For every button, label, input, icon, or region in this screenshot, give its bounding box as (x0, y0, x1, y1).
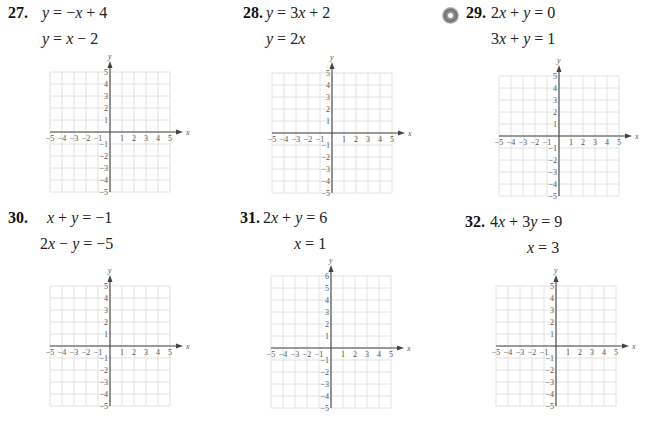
svg-text:2: 2 (104, 104, 108, 113)
svg-text:−5: −5 (548, 192, 557, 201)
svg-text:−2: −2 (99, 366, 108, 375)
problem-number: 30. (8, 209, 28, 227)
svg-text:−5: −5 (268, 135, 277, 144)
svg-text:2: 2 (354, 135, 358, 144)
svg-text:4: 4 (104, 80, 108, 89)
svg-text:2: 2 (132, 348, 136, 357)
svg-text:6: 6 (325, 272, 329, 281)
svg-text:−3: −3 (545, 378, 554, 387)
svg-text:2: 2 (326, 105, 330, 114)
svg-text:−1: −1 (99, 354, 108, 363)
svg-text:1: 1 (104, 330, 108, 339)
svg-text:2: 2 (104, 318, 108, 327)
svg-text:−3: −3 (320, 380, 329, 389)
svg-text:−5: −5 (99, 188, 108, 197)
svg-text:4: 4 (550, 294, 554, 303)
svg-text:3: 3 (104, 306, 108, 315)
svg-text:x: x (185, 342, 190, 351)
svg-text:−5: −5 (267, 350, 276, 359)
svg-text:−2: −2 (82, 134, 91, 143)
svg-text:−2: −2 (304, 135, 313, 144)
coordinate-grid[interactable]: xy−5−4−3−2−112345−5−4−3−2−112345 (477, 54, 641, 218)
svg-text:−5: −5 (320, 404, 329, 413)
svg-text:3: 3 (593, 138, 597, 147)
svg-text:1: 1 (553, 120, 557, 129)
svg-text:−4: −4 (545, 390, 554, 399)
svg-text:−3: −3 (291, 350, 300, 359)
svg-text:−2: −2 (548, 156, 557, 165)
svg-text:y: y (553, 266, 558, 275)
svg-text:4: 4 (156, 134, 160, 143)
svg-text:−2: −2 (303, 350, 312, 359)
svg-text:−5: −5 (495, 138, 504, 147)
svg-text:5: 5 (325, 284, 329, 293)
svg-text:−3: −3 (516, 348, 525, 357)
svg-text:4: 4 (605, 138, 609, 147)
svg-text:1: 1 (120, 134, 124, 143)
cd-disc-icon[interactable] (442, 7, 459, 24)
coordinate-grid[interactable]: xy−5−4−3−2−112345−5−4−3−2−112345 (28, 264, 192, 425)
svg-text:−4: −4 (548, 180, 557, 189)
svg-text:−4: −4 (279, 350, 288, 359)
svg-text:−5: −5 (99, 402, 108, 411)
svg-text:x: x (634, 132, 639, 141)
svg-text:3: 3 (590, 348, 594, 357)
svg-text:4: 4 (326, 81, 330, 90)
svg-text:3: 3 (366, 135, 370, 144)
svg-text:5: 5 (390, 135, 394, 144)
svg-text:−1: −1 (545, 354, 554, 363)
svg-text:y: y (329, 53, 334, 62)
svg-text:1: 1 (120, 348, 124, 357)
svg-text:3: 3 (553, 96, 557, 105)
svg-text:5: 5 (104, 282, 108, 291)
svg-text:1: 1 (566, 348, 570, 357)
svg-text:3: 3 (550, 306, 554, 315)
problem-number: 31. (240, 209, 260, 227)
svg-text:1: 1 (550, 330, 554, 339)
equation-2: y = 2x (266, 30, 305, 48)
svg-text:−5: −5 (545, 402, 554, 411)
svg-text:4: 4 (378, 135, 382, 144)
svg-text:5: 5 (614, 348, 618, 357)
svg-text:2: 2 (325, 320, 329, 329)
equation-2: x = 3 (527, 239, 559, 257)
coordinate-grid[interactable]: xy−5−4−3−2−112345−5−4−3−2−112345 (28, 50, 192, 214)
svg-text:−2: −2 (99, 152, 108, 161)
svg-text:−2: −2 (528, 348, 537, 357)
svg-text:−4: −4 (58, 348, 67, 357)
svg-text:5: 5 (326, 69, 330, 78)
svg-text:4: 4 (553, 84, 557, 93)
svg-text:−2: −2 (321, 153, 330, 162)
problem-number: 28. (243, 4, 263, 22)
problem-number: 29. (466, 4, 486, 22)
svg-text:1: 1 (341, 350, 345, 359)
svg-text:5: 5 (553, 72, 557, 81)
svg-text:x: x (406, 344, 411, 353)
svg-text:x: x (407, 129, 412, 138)
svg-text:1: 1 (104, 116, 108, 125)
svg-text:2: 2 (553, 108, 557, 117)
equation-2: 3x + y = 1 (491, 30, 555, 48)
svg-text:2: 2 (581, 138, 585, 147)
svg-text:3: 3 (326, 93, 330, 102)
svg-text:−2: −2 (531, 138, 540, 147)
svg-text:1: 1 (342, 135, 346, 144)
svg-text:−5: −5 (46, 348, 55, 357)
svg-text:−4: −4 (99, 390, 108, 399)
svg-text:5: 5 (168, 348, 172, 357)
svg-text:−4: −4 (280, 135, 289, 144)
svg-text:−1: −1 (321, 141, 330, 150)
svg-text:5: 5 (389, 350, 393, 359)
equation-2: y = x − 2 (42, 30, 98, 48)
coordinate-grid[interactable]: xy−5−4−3−2−112345−5−4−3−2−1123456 (249, 254, 413, 425)
equation-1: 4x + 3y = 9 (490, 213, 562, 231)
svg-text:−3: −3 (70, 348, 79, 357)
equation-1: y = −x + 4 (42, 4, 107, 22)
svg-text:−5: −5 (46, 134, 55, 143)
svg-text:−3: −3 (292, 135, 301, 144)
svg-text:y: y (107, 52, 112, 61)
svg-text:2: 2 (550, 318, 554, 327)
coordinate-grid[interactable]: xy−5−4−3−2−112345−5−4−3−2−112345 (250, 51, 414, 215)
coordinate-grid[interactable]: xy−5−4−3−2−112345−5−4−3−2−112345 (474, 264, 638, 425)
svg-text:y: y (107, 266, 112, 275)
